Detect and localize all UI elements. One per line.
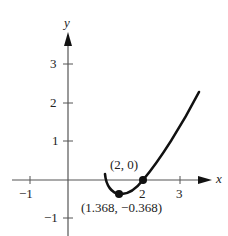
x-axis-arrow-icon: [198, 176, 212, 184]
min-point-label: (1.368, −0.368): [81, 201, 162, 214]
y-tick-label-3: 3: [50, 57, 57, 70]
min-point-marker: [115, 190, 123, 198]
x-tick-label-3: 3: [176, 187, 183, 200]
y-axis-label: y: [64, 16, 70, 29]
x-axis-label: x: [216, 172, 222, 185]
function-curve: [105, 92, 199, 194]
zero-point-label: (2, 0): [110, 158, 138, 171]
y-axis-arrow-icon: [64, 32, 72, 46]
x-tick-label-neg1: −1: [19, 187, 33, 200]
zero-point-marker: [139, 176, 147, 184]
y-tick-label-1: 1: [52, 134, 59, 147]
y-tick-label-2: 2: [50, 96, 57, 109]
y-tick-label-neg1: −1: [44, 211, 58, 224]
x-tick-label-2: 2: [139, 187, 146, 200]
